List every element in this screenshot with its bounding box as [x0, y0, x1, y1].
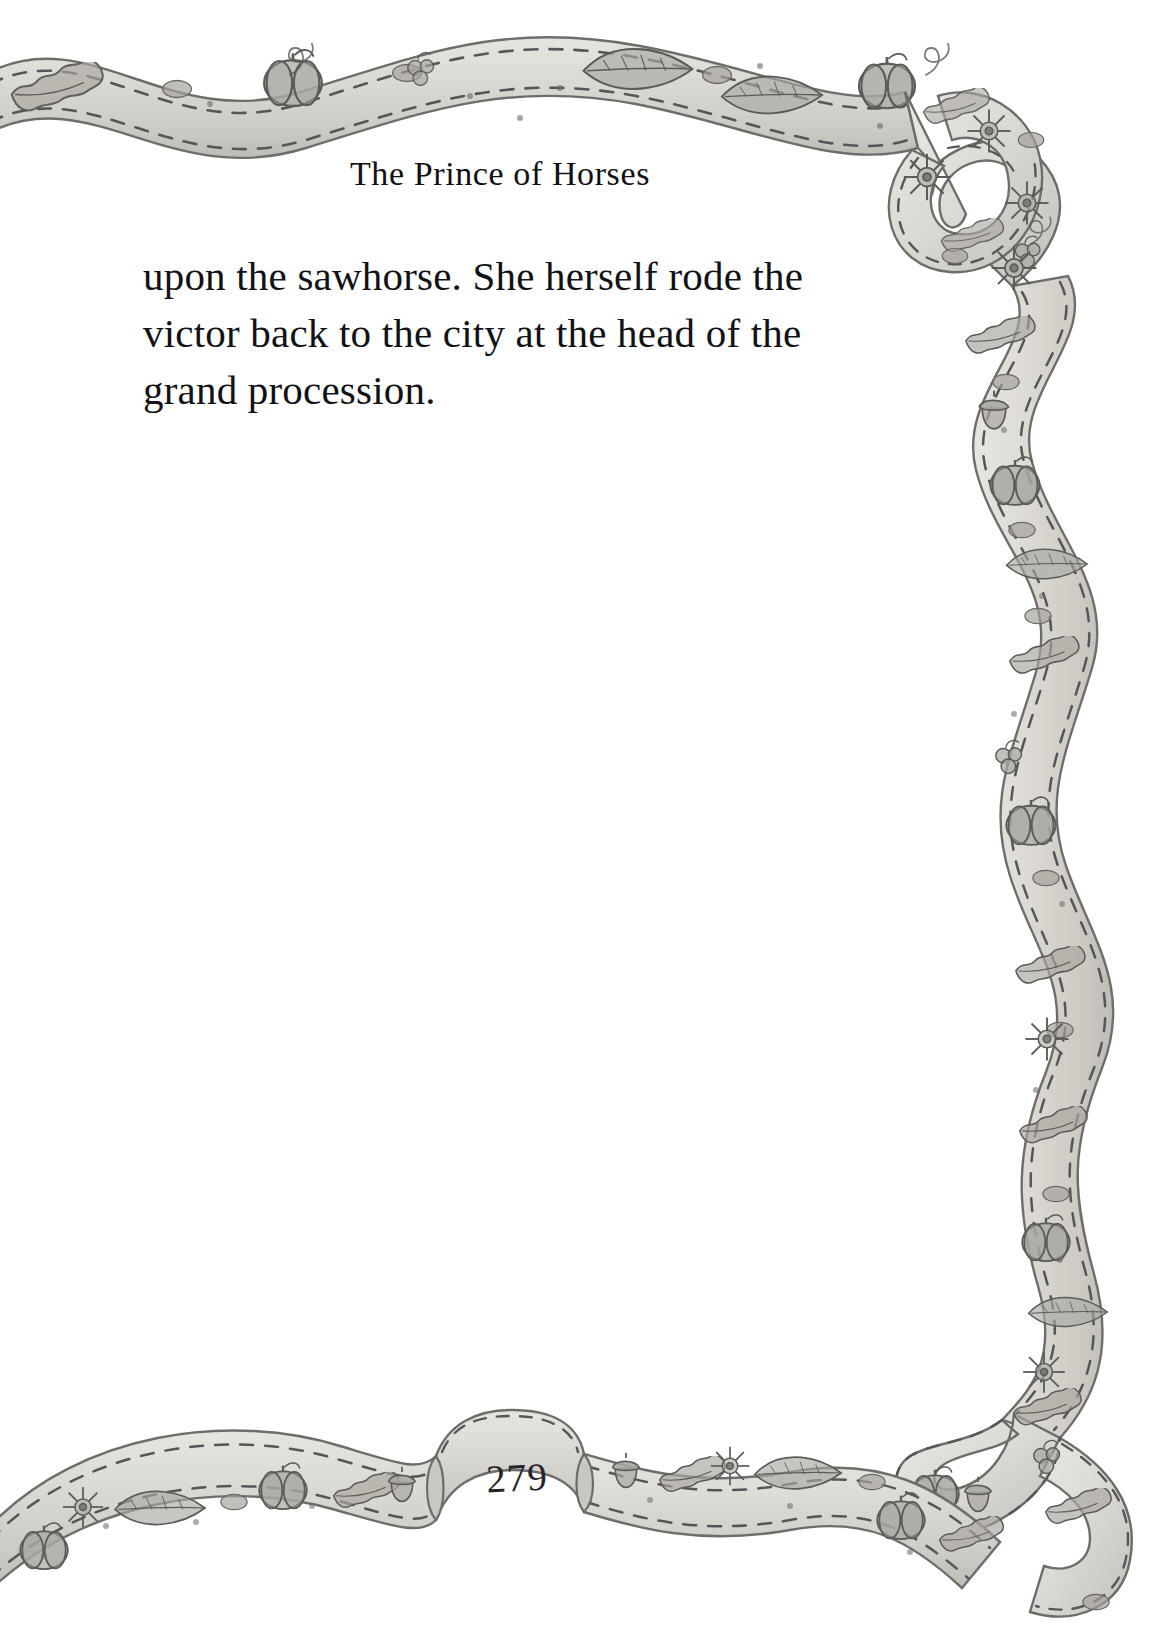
body-line: upon the sawhorse. She herself rode the	[143, 248, 873, 305]
body-line: grand procession.	[143, 362, 873, 419]
decorative-ribbon-border	[0, 0, 1161, 1641]
right-serpentine-ribbon	[966, 246, 1113, 1438]
bottom-right-ribbon-knot	[896, 1387, 1132, 1616]
body-paragraph: upon the sawhorse. She herself rode the …	[143, 248, 873, 419]
page-number: 279	[461, 1452, 573, 1503]
top-wavy-ribbon	[0, 37, 949, 158]
running-head: The Prince of Horses	[0, 155, 1000, 193]
book-page: The Prince of Horses upon the sawhorse. …	[0, 0, 1161, 1641]
body-line: victor back to the city at the head of t…	[143, 305, 873, 362]
